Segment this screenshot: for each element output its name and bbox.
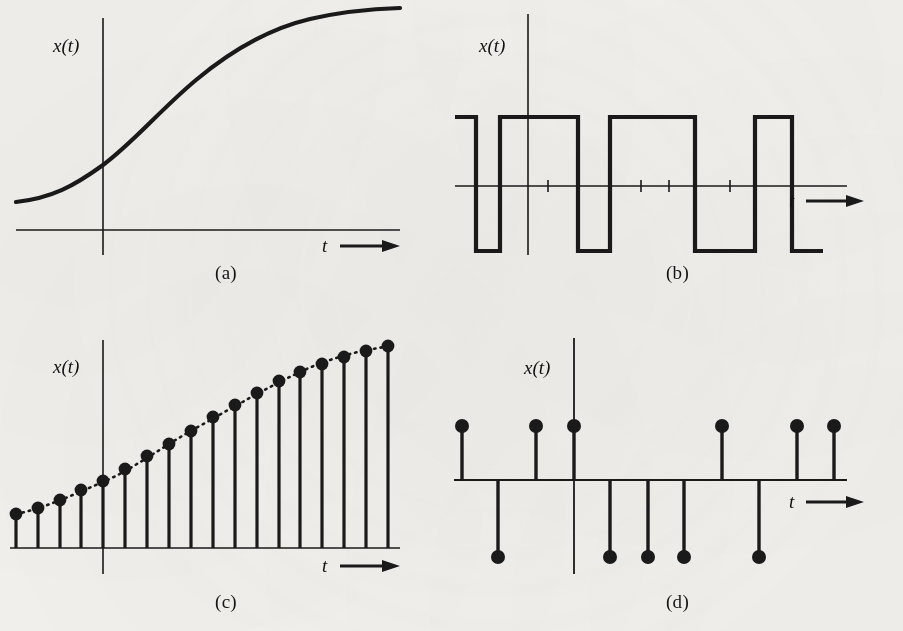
panel-a-t-axis-label: t bbox=[322, 235, 328, 256]
panel-a-y-axis-label: x(t) bbox=[52, 35, 79, 57]
panel-c-y-axis-label: x(t) bbox=[52, 356, 79, 378]
panel-a-plot: t x(t) bbox=[0, 0, 452, 262]
panel-b-t-arrow-icon bbox=[806, 195, 864, 207]
panel-d-y-axis-label: x(t) bbox=[523, 357, 550, 379]
panel-d-caption: (d) bbox=[452, 591, 903, 613]
panel-d-stems bbox=[462, 426, 834, 557]
panel-b: t x(t) (b) bbox=[452, 0, 903, 300]
panel-c-t-arrow-icon bbox=[340, 560, 400, 572]
panel-b-t-axis-label: t bbox=[789, 190, 795, 211]
panel-a: t x(t) (a) bbox=[0, 0, 452, 300]
panel-c-plot: t x(t) bbox=[0, 316, 452, 591]
panel-b-plot: t x(t) bbox=[452, 0, 903, 262]
panel-a-caption: (a) bbox=[0, 262, 452, 284]
signal-types-figure: t x(t) (a) t bbox=[0, 0, 903, 631]
panel-c-t-axis-label: t bbox=[322, 555, 328, 576]
panel-d-plot: t x(t) bbox=[452, 316, 903, 591]
panel-c-caption: (c) bbox=[0, 591, 452, 613]
panel-b-y-axis-label: x(t) bbox=[478, 35, 505, 57]
panel-d-t-axis-label: t bbox=[789, 491, 795, 512]
panel-a-t-arrow-icon bbox=[340, 240, 400, 252]
panel-b-signal-waveform bbox=[455, 117, 823, 251]
panel-d: t x(t) (d) bbox=[452, 316, 903, 631]
panel-b-caption: (b) bbox=[452, 262, 903, 284]
panel-c: t x(t) (c) bbox=[0, 316, 452, 631]
panel-d-t-arrow-icon bbox=[806, 496, 864, 508]
